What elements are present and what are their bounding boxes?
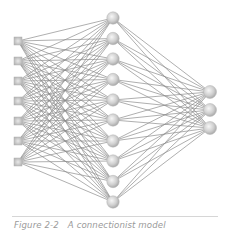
hidden-node xyxy=(107,114,119,126)
connection-line xyxy=(113,92,210,182)
hidden-node xyxy=(107,135,119,147)
connection-line xyxy=(18,100,113,162)
connection-line xyxy=(113,18,210,92)
input-node xyxy=(14,77,22,85)
hidden-node xyxy=(107,73,119,85)
connection-line xyxy=(18,162,113,182)
caption-divider xyxy=(12,216,218,217)
input-node xyxy=(14,97,22,105)
connection-line xyxy=(113,110,210,182)
output-node xyxy=(204,86,217,99)
hidden-node xyxy=(107,196,119,208)
connection-line xyxy=(113,92,210,141)
connection-line xyxy=(113,92,210,202)
input-node xyxy=(14,137,22,145)
connection-line xyxy=(113,80,210,93)
hidden-node xyxy=(107,12,119,24)
input-node xyxy=(14,117,22,125)
connection-line xyxy=(18,161,113,162)
input-node xyxy=(14,158,22,166)
hidden-node xyxy=(107,32,119,44)
hidden-node xyxy=(107,155,119,167)
connectionist-network-diagram xyxy=(0,0,229,212)
connection-line xyxy=(18,18,113,41)
hidden-node xyxy=(107,175,119,187)
hidden-node xyxy=(107,94,119,106)
figure-label: Figure 2-2 xyxy=(14,220,59,230)
connection-line xyxy=(18,162,113,202)
input-node xyxy=(14,37,22,45)
connection-lines xyxy=(18,18,210,202)
connection-line xyxy=(113,110,210,161)
figure-caption: Figure 2-2A connectionist model xyxy=(14,220,166,230)
figure-title: A connectionist model xyxy=(68,220,166,230)
output-node xyxy=(204,122,217,135)
input-node xyxy=(14,57,22,65)
output-node xyxy=(204,104,217,117)
network-nodes xyxy=(14,12,217,208)
hidden-node xyxy=(107,53,119,65)
